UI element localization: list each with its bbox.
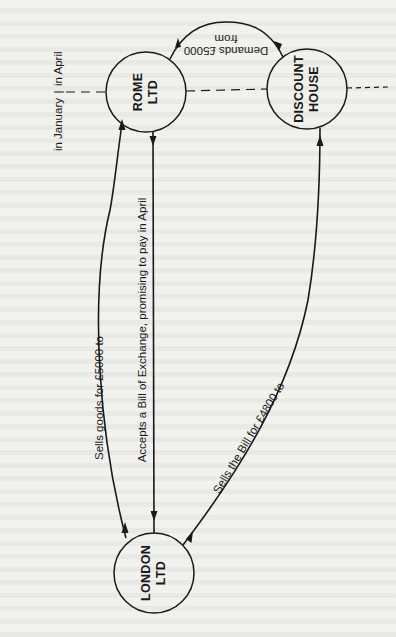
arrowhead-icon <box>151 511 158 521</box>
node-rome-ltd: ROME LTD <box>106 52 186 132</box>
london-label-line2: LTD <box>154 561 168 585</box>
timeline-labels: in January | in April <box>52 51 64 151</box>
label-sells-goods: Sells goods for £5000 to <box>93 336 105 460</box>
discount-label-line2: HOUSE <box>307 66 321 112</box>
label-accepts-bill: Accepts a Bill of Exchange, promising to… <box>136 198 148 463</box>
arrowhead-icon <box>150 136 157 146</box>
edge-accepts-bill: Accepts a Bill of Exchange, promising to… <box>136 132 158 533</box>
label-sells-bill: Sells the Bill for £4800 to <box>211 380 287 495</box>
rome-label-line2: LTD <box>146 80 160 104</box>
london-label-line1: LONDON <box>139 545 153 601</box>
edge-demands: Demands £5000 from <box>170 22 283 59</box>
label-demands-line2: from <box>215 33 238 45</box>
edge-sells-bill: Sells the Bill for £4800 to <box>183 128 324 545</box>
label-demands-line1: Demands £5000 <box>184 45 268 57</box>
timeline-separator: | <box>52 91 64 94</box>
label-in-april: in April <box>52 51 64 86</box>
time-divider <box>66 87 388 92</box>
rome-label-line1: ROME <box>131 73 145 112</box>
edge-sells-goods: Sells goods for £5000 to <box>93 119 129 538</box>
label-in-january: in January <box>52 98 64 151</box>
node-london-ltd: LONDON LTD <box>114 533 194 613</box>
node-discount-house: DISCOUNT HOUSE <box>267 49 347 129</box>
discount-label-line1: DISCOUNT <box>292 55 306 123</box>
arrowhead-icon <box>317 135 324 146</box>
flow-diagram: in January | in April ROME LTD DISCOUNT … <box>0 0 396 637</box>
arrowhead-icon <box>186 531 193 543</box>
arrowhead-icon <box>119 119 126 130</box>
